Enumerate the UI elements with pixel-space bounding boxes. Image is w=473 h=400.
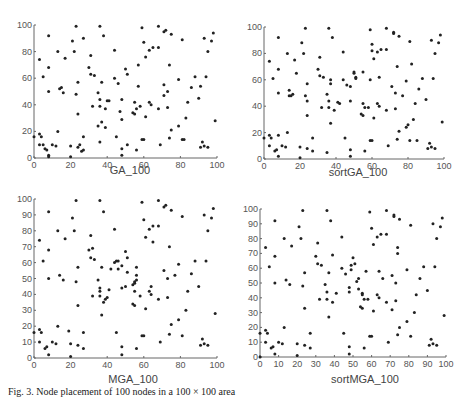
data-point: [361, 293, 364, 296]
data-point: [430, 338, 433, 341]
data-point: [303, 344, 306, 347]
x-tick-label: 30: [311, 359, 321, 369]
data-point: [376, 236, 379, 239]
data-point: [327, 316, 330, 319]
data-point: [320, 264, 323, 267]
data-point: [396, 246, 399, 249]
data-point: [426, 289, 429, 292]
data-point: [348, 345, 351, 348]
x-tick-label: 90: [422, 359, 432, 369]
y-tick-label: 60: [248, 263, 258, 273]
data-point: [259, 332, 262, 335]
data-point: [331, 253, 334, 256]
data-point: [325, 298, 328, 301]
data-point: [273, 282, 276, 285]
data-point: [394, 282, 397, 285]
y-tick-label: 0: [253, 352, 258, 362]
data-point: [325, 290, 328, 293]
data-point: [428, 344, 431, 347]
data-point: [394, 299, 397, 302]
y-tick-label: 80: [248, 234, 258, 244]
data-point: [329, 219, 332, 222]
data-point: [435, 344, 438, 347]
data-point: [415, 293, 418, 296]
data-point: [273, 255, 276, 258]
data-point: [264, 341, 267, 344]
data-point: [398, 218, 401, 221]
data-point: [348, 353, 351, 356]
data-point: [316, 242, 319, 245]
figure-caption: Fig. 3. Node placement of 100 nodes in a…: [8, 386, 235, 397]
data-point: [335, 292, 338, 295]
data-point: [325, 209, 328, 212]
data-point: [290, 245, 293, 248]
data-point: [385, 233, 388, 236]
x-tick-label: 0: [257, 359, 262, 369]
data-point: [344, 273, 347, 276]
data-point: [327, 271, 330, 274]
x-tick-label: 20: [292, 359, 302, 369]
data-point: [268, 265, 271, 268]
x-axis-label: sortMGA_100: [320, 373, 410, 385]
x-tick-label: 10: [274, 359, 284, 369]
data-point: [422, 265, 425, 268]
data-point: [385, 301, 388, 304]
y-tick-label: 90: [248, 219, 258, 229]
data-point: [288, 283, 291, 286]
y-tick-label: 20: [248, 322, 258, 332]
data-point: [301, 209, 304, 212]
y-tick-label: 70: [248, 248, 258, 258]
data-point: [443, 314, 446, 317]
data-point: [431, 222, 434, 225]
data-point: [370, 335, 373, 338]
data-point: [316, 262, 319, 265]
data-point: [396, 333, 399, 336]
data-point: [379, 233, 382, 236]
data-point: [387, 341, 390, 344]
data-point: [372, 310, 375, 313]
data-point: [405, 320, 408, 323]
data-point: [378, 296, 381, 299]
data-point: [298, 225, 301, 228]
data-point: [348, 286, 351, 289]
x-tick-label: 100: [438, 359, 453, 369]
data-point: [385, 209, 388, 212]
data-point: [357, 277, 360, 280]
data-point: [392, 213, 395, 216]
data-point: [340, 236, 343, 239]
y-tick-label: 40: [248, 293, 258, 303]
data-point: [296, 342, 299, 345]
data-point: [340, 267, 343, 270]
data-point: [303, 307, 306, 310]
data-point: [348, 290, 351, 293]
data-point: [433, 265, 436, 268]
data-point: [285, 279, 288, 282]
data-point: [439, 225, 442, 228]
data-point: [283, 326, 286, 329]
data-point: [342, 332, 345, 335]
y-tick-label: 50: [248, 278, 258, 288]
data-point: [441, 216, 444, 219]
data-point: [396, 252, 399, 255]
data-point: [277, 341, 280, 344]
data-point: [350, 264, 353, 267]
data-point: [314, 255, 317, 258]
data-point: [365, 270, 368, 273]
data-point: [283, 237, 286, 240]
data-point: [370, 227, 373, 230]
x-tick-label: 60: [367, 359, 377, 369]
data-point: [368, 210, 371, 213]
data-point: [264, 329, 267, 332]
data-point: [318, 298, 321, 301]
data-point: [299, 237, 302, 240]
data-point: [281, 342, 284, 345]
data-point: [391, 308, 394, 311]
x-tick-label: 70: [385, 359, 395, 369]
data-point: [264, 246, 267, 249]
y-tick-label: 10: [248, 337, 258, 347]
data-point: [309, 332, 312, 335]
data-point: [355, 280, 358, 283]
data-point: [273, 353, 276, 356]
data-point: [409, 335, 412, 338]
data-point: [357, 287, 360, 290]
